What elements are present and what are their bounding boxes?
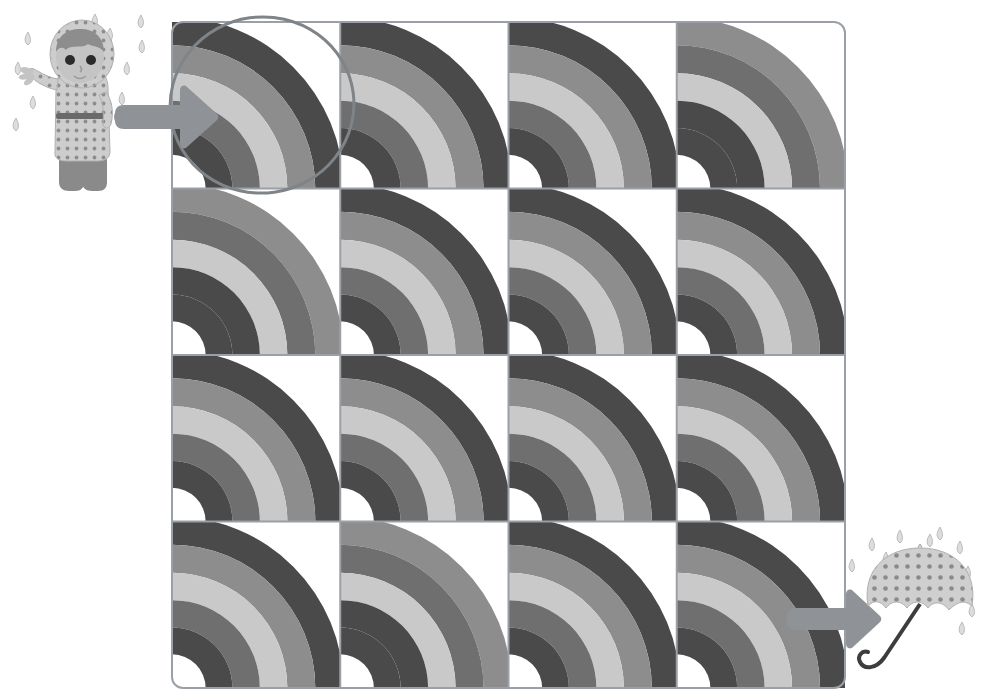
open-umbrella <box>0 0 983 700</box>
umbrella-handle <box>859 652 884 668</box>
umbrella-shaft <box>884 604 920 658</box>
worksheet-canvas <box>0 0 983 700</box>
